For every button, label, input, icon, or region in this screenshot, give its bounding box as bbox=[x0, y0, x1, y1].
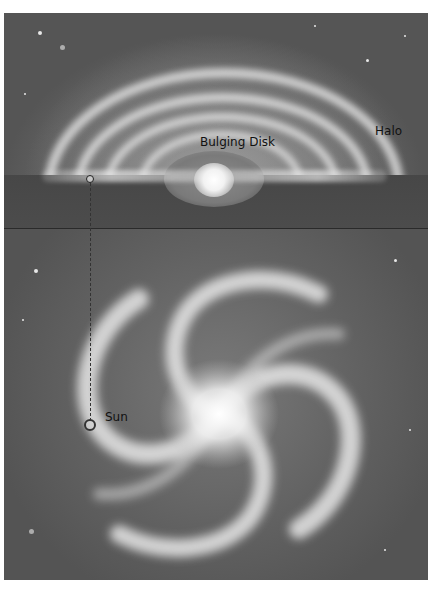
diagram-frame: Bulging Disk Halo bbox=[4, 13, 428, 580]
star bbox=[24, 93, 26, 95]
star bbox=[29, 529, 34, 534]
star bbox=[314, 25, 316, 27]
star bbox=[409, 429, 411, 431]
star bbox=[404, 35, 406, 37]
star bbox=[34, 269, 38, 273]
projection-dashed-line bbox=[90, 183, 91, 421]
galactic-core bbox=[194, 163, 234, 197]
edge-on-view-panel: Bulging Disk Halo bbox=[4, 13, 428, 228]
star bbox=[22, 319, 24, 321]
star bbox=[60, 45, 65, 50]
star bbox=[366, 59, 369, 62]
star bbox=[38, 31, 42, 35]
sun-position-marker-edge bbox=[86, 175, 94, 183]
bulging-disk-label: Bulging Disk bbox=[200, 135, 275, 149]
face-on-view-panel: Sun bbox=[4, 229, 428, 580]
halo-label: Halo bbox=[375, 124, 402, 138]
spiral-galaxy bbox=[49, 249, 389, 579]
star bbox=[394, 259, 397, 262]
sun-label: Sun bbox=[105, 410, 128, 424]
star bbox=[384, 549, 386, 551]
